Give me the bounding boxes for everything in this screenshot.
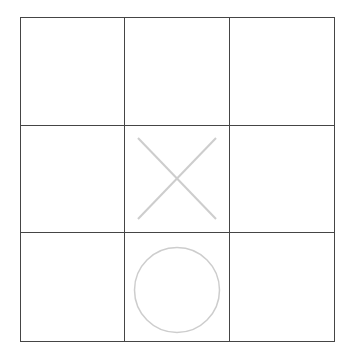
x-mark-icon — [136, 136, 218, 221]
tic-tac-toe-screen — [0, 0, 349, 362]
cell-r2-c0[interactable] — [21, 233, 125, 341]
cell-r0-c2[interactable] — [230, 18, 334, 126]
cell-r2-c2[interactable] — [230, 233, 334, 341]
cell-r2-c1[interactable] — [125, 233, 229, 341]
cell-r1-c1[interactable] — [125, 126, 229, 234]
cell-r0-c1[interactable] — [125, 18, 229, 126]
cell-r1-c0[interactable] — [21, 126, 125, 234]
cell-r1-c2[interactable] — [230, 126, 334, 234]
tic-tac-toe-board — [20, 17, 335, 342]
cell-r0-c0[interactable] — [21, 18, 125, 126]
o-mark-icon — [133, 246, 221, 334]
